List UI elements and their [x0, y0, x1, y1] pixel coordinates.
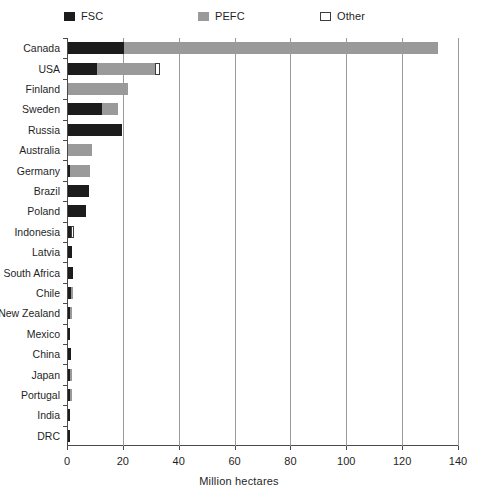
bar-row[interactable]: Canada: [67, 38, 458, 58]
bar-row[interactable]: South Africa: [67, 262, 458, 282]
legend-swatch-fsc-icon: [64, 12, 75, 21]
bar-stack: [68, 103, 118, 115]
legend-item-pefc[interactable]: PEFC: [198, 8, 245, 24]
bar-segment-pefc: [124, 42, 438, 54]
bar-stack: [68, 42, 438, 54]
legend-item-fsc[interactable]: FSC: [64, 8, 103, 24]
y-tick-germany: [63, 160, 67, 161]
bar-segment-fsc: [68, 42, 124, 54]
category-label-sweden: Sweden: [22, 104, 60, 115]
bar-row[interactable]: Indonesia: [67, 222, 458, 242]
bar-stack: [68, 409, 70, 421]
bar-segment-fsc: [68, 205, 86, 217]
y-tick-poland: [63, 201, 67, 202]
bar-stack: [68, 144, 92, 156]
bar-segment-fsc: [68, 185, 89, 197]
y-tick-mexico: [63, 324, 67, 325]
x-tick-60: [235, 446, 236, 450]
y-tick-new-zealand: [63, 303, 67, 304]
gridline-140: [458, 38, 459, 446]
bar-row[interactable]: Germany: [67, 160, 458, 180]
category-label-indonesia: Indonesia: [14, 226, 60, 237]
bar-stack: [68, 389, 72, 401]
plot-area: 020406080100120140 CanadaUSAFinlandSwede…: [67, 38, 458, 446]
bar-row[interactable]: Poland: [67, 201, 458, 221]
bar-row[interactable]: Sweden: [67, 99, 458, 119]
bar-stack: [68, 205, 86, 217]
x-tick-label-80: 80: [284, 456, 296, 467]
category-label-latvia: Latvia: [32, 247, 60, 258]
bar-stack: [68, 307, 72, 319]
bar-segment-pefc: [70, 389, 72, 401]
chart-legend: FSC PEFC Other: [0, 8, 478, 28]
bar-segment-fsc: [68, 409, 70, 421]
legend-swatch-pefc-icon: [198, 12, 209, 21]
bar-row[interactable]: Latvia: [67, 242, 458, 262]
legend-item-other[interactable]: Other: [320, 8, 365, 24]
category-label-new-zealand: New Zealand: [0, 308, 60, 319]
y-tick-india: [63, 405, 67, 406]
legend-label-other: Other: [337, 11, 365, 22]
bar-row[interactable]: Chile: [67, 283, 458, 303]
category-label-finland: Finland: [26, 83, 60, 94]
category-label-china: China: [33, 349, 60, 360]
bar-segment-fsc: [68, 63, 97, 75]
x-tick-label-120: 120: [393, 456, 411, 467]
bar-stack: [68, 226, 74, 238]
category-label-mexico: Mexico: [27, 328, 60, 339]
bar-segment-pefc: [71, 287, 73, 299]
y-tick-drc: [63, 426, 67, 427]
x-axis-title: Million hectares: [0, 475, 478, 487]
y-tick-latvia: [63, 242, 67, 243]
bar-segment-pefc: [70, 165, 90, 177]
bar-segment-other: [155, 63, 161, 75]
x-tick-20: [123, 446, 124, 450]
x-tick-label-140: 140: [449, 456, 467, 467]
category-label-japan: Japan: [31, 369, 60, 380]
bar-row[interactable]: DRC: [67, 426, 458, 446]
y-tick-japan: [63, 364, 67, 365]
y-tick-china: [63, 344, 67, 345]
bar-row[interactable]: Finland: [67, 79, 458, 99]
bar-segment-fsc: [68, 103, 102, 115]
x-tick-80: [290, 446, 291, 450]
legend-label-pefc: PEFC: [215, 11, 245, 22]
bar-row[interactable]: USA: [67, 58, 458, 78]
bar-stack: [68, 287, 73, 299]
category-label-usa: USA: [38, 63, 60, 74]
bar-stack: [68, 348, 71, 360]
bar-row[interactable]: India: [67, 405, 458, 425]
bar-row[interactable]: Japan: [67, 364, 458, 384]
bar-segment-pefc: [68, 144, 92, 156]
y-tick-chile: [63, 283, 67, 284]
x-tick-120: [402, 446, 403, 450]
bar-stack: [68, 83, 128, 95]
legend-swatch-other-icon: [320, 12, 331, 21]
forest-certification-bar-chart: FSC PEFC Other 020406080100120140 Canada…: [0, 0, 478, 499]
y-tick-australia: [63, 140, 67, 141]
bar-row[interactable]: Portugal: [67, 385, 458, 405]
category-label-poland: Poland: [27, 206, 60, 217]
bar-segment-pefc: [70, 307, 72, 319]
x-tick-100: [346, 446, 347, 450]
category-label-brazil: Brazil: [34, 185, 60, 196]
bar-row[interactable]: China: [67, 344, 458, 364]
bar-segment-fsc: [68, 267, 73, 279]
y-tick-indonesia: [63, 222, 67, 223]
x-tick-0: [67, 446, 68, 450]
bar-row[interactable]: Brazil: [67, 181, 458, 201]
bar-row[interactable]: New Zealand: [67, 303, 458, 323]
x-tick-label-0: 0: [64, 456, 70, 467]
bar-row[interactable]: Mexico: [67, 324, 458, 344]
bar-stack: [68, 246, 72, 258]
y-tick-brazil: [63, 181, 67, 182]
legend-label-fsc: FSC: [81, 11, 103, 22]
category-label-portugal: Portugal: [21, 389, 60, 400]
bar-segment-pefc: [102, 103, 119, 115]
category-label-chile: Chile: [36, 287, 60, 298]
bar-stack: [68, 185, 89, 197]
bar-row[interactable]: Russia: [67, 120, 458, 140]
bar-row[interactable]: Australia: [67, 140, 458, 160]
x-tick-label-20: 20: [117, 456, 129, 467]
y-tick-russia: [63, 120, 67, 121]
